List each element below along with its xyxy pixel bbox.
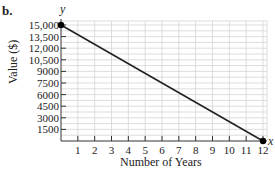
svg-text:5: 5	[142, 144, 148, 156]
svg-text:15,000: 15,000	[29, 19, 60, 31]
grid	[61, 21, 267, 141]
svg-text:12,000: 12,000	[29, 42, 60, 54]
svg-text:2: 2	[92, 144, 98, 156]
axes	[61, 19, 267, 141]
svg-text:6: 6	[159, 144, 165, 156]
svg-text:7: 7	[176, 144, 182, 156]
svg-text:4500: 4500	[37, 100, 60, 112]
svg-text:10,500: 10,500	[29, 54, 60, 66]
svg-text:12: 12	[258, 144, 269, 156]
svg-text:9000: 9000	[37, 65, 60, 77]
line-chart: 1234567891011121500300045006000750090001…	[0, 0, 275, 176]
svg-text:3: 3	[109, 144, 115, 156]
svg-text:11: 11	[241, 144, 252, 156]
svg-text:3000: 3000	[37, 112, 60, 124]
svg-text:9: 9	[210, 144, 216, 156]
svg-text:6000: 6000	[37, 89, 60, 101]
svg-text:1500: 1500	[37, 123, 60, 135]
svg-text:1: 1	[75, 144, 81, 156]
svg-text:4: 4	[126, 144, 132, 156]
svg-text:8: 8	[193, 144, 199, 156]
svg-text:7500: 7500	[37, 77, 60, 89]
svg-text:13,500: 13,500	[29, 31, 60, 43]
svg-text:10: 10	[224, 144, 236, 156]
